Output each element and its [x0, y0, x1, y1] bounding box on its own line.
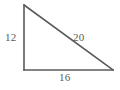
- base-label: 16: [59, 72, 70, 83]
- hypotenuse-label: 20: [73, 32, 84, 43]
- hypotenuse-line: [24, 5, 113, 70]
- right-triangle-figure: 12 20 16: [0, 0, 120, 90]
- vertical-leg-label: 12: [5, 32, 16, 43]
